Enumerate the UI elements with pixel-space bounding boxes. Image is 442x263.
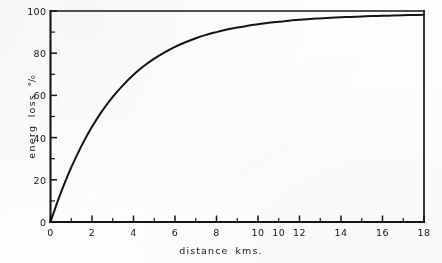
x-tick-label: 6 <box>172 227 178 238</box>
x-tick-label: 0 <box>47 227 53 238</box>
y-tick-label: 80 <box>0 48 47 59</box>
y-tick-label: 100 <box>0 6 47 17</box>
x-axis-title: distance kms. <box>179 245 262 256</box>
energy-loss-curve <box>51 15 425 222</box>
y-tick-label: 40 <box>0 132 47 143</box>
x-tick-label: 10 <box>252 227 265 238</box>
y-tick-label: 0 <box>0 217 47 228</box>
x-tick-label: 10 <box>272 227 285 238</box>
x-tick-label: 14 <box>335 227 348 238</box>
x-tick-label: 12 <box>293 227 306 238</box>
y-tick-label: 20 <box>0 174 47 185</box>
plot-frame <box>51 11 425 222</box>
x-tick-label: 18 <box>418 227 431 238</box>
chart-figure: 02468101012141618 020406080100 distance … <box>0 0 442 263</box>
y-axis-title-text: energ loss <box>26 86 37 158</box>
percent-symbol: °/₀ <box>27 75 37 86</box>
x-tick-label: 2 <box>89 227 95 238</box>
x-tick-label: 8 <box>213 227 219 238</box>
y-tick-label: 60 <box>0 90 47 101</box>
y-axis-title: energ loss °/₀ <box>26 75 37 158</box>
x-tick-label: 16 <box>376 227 389 238</box>
plot-canvas <box>0 0 442 263</box>
x-tick-label: 4 <box>130 227 136 238</box>
